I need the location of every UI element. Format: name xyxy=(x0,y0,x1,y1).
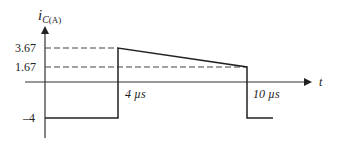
y-label-unit: (A) xyxy=(49,15,62,25)
tick-neg-4: –4 xyxy=(23,112,35,124)
x-axis-arrow-icon xyxy=(304,78,312,86)
tick-1-67: 1.67 xyxy=(15,61,36,73)
current-waveform xyxy=(45,48,273,118)
tick-10us: 10 µs xyxy=(253,88,280,100)
y-axis-label: iC(A) xyxy=(38,8,61,25)
tick-3-67: 3.67 xyxy=(15,42,36,54)
tick-4us: 4 µs xyxy=(125,88,146,100)
x-axis-label: t xyxy=(319,76,322,88)
y-axis-arrow-icon xyxy=(41,26,49,34)
y-label-sub: C xyxy=(42,14,49,25)
